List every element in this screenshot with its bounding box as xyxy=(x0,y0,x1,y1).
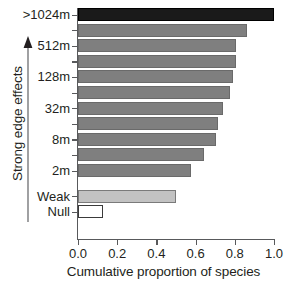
plot-area xyxy=(78,8,274,232)
bar-row xyxy=(78,133,274,146)
bar xyxy=(78,70,233,83)
bar xyxy=(78,55,236,68)
y-axis-tick-label: 8m xyxy=(0,133,70,146)
bar-row xyxy=(78,190,274,203)
x-axis-tick-label: 0.4 xyxy=(136,247,176,260)
y-axis-tick xyxy=(72,30,77,31)
bar-row xyxy=(78,117,274,130)
y-axis-tick xyxy=(72,108,77,109)
x-axis-tick xyxy=(78,240,79,245)
bar xyxy=(78,8,274,21)
y-axis-tick xyxy=(72,124,77,125)
y-axis-tick-label: 512m xyxy=(0,39,70,52)
x-axis-tick-label: 1.0 xyxy=(254,247,287,260)
y-axis-tick-label: >1024m xyxy=(0,8,70,21)
bar xyxy=(78,117,218,130)
bar xyxy=(78,205,103,218)
bar xyxy=(78,39,236,52)
x-axis-tick xyxy=(117,240,118,245)
x-axis-tick-label: 0.0 xyxy=(58,247,98,260)
y-axis-tick-label: 128m xyxy=(0,70,70,83)
bar xyxy=(78,24,247,37)
bar xyxy=(78,148,204,161)
x-axis-tick-label: 0.8 xyxy=(215,247,255,260)
y-axis-tick xyxy=(72,93,77,94)
x-axis-tick xyxy=(274,240,275,245)
y-axis-tick-label: Null xyxy=(0,205,70,218)
bar xyxy=(78,86,230,99)
bar-row xyxy=(78,24,274,37)
bar-row xyxy=(78,70,274,83)
y-axis-tick xyxy=(72,77,77,78)
y-axis-tick-label: 32m xyxy=(0,102,70,115)
bar-row xyxy=(78,205,274,218)
y-axis-tick-label: 2m xyxy=(0,164,70,177)
bar xyxy=(78,190,176,203)
x-axis-tick-label: 0.2 xyxy=(97,247,137,260)
bar-row xyxy=(78,86,274,99)
bar xyxy=(78,164,191,177)
x-axis-title: Cumulative proportion of species xyxy=(40,264,287,279)
y-axis-tick-label: Weak xyxy=(0,190,70,203)
y-axis-tick xyxy=(72,61,77,62)
y-axis-tick xyxy=(72,196,77,197)
x-axis-tick xyxy=(156,240,157,245)
y-axis-tick xyxy=(72,139,77,140)
x-axis-tick-label: 0.6 xyxy=(176,247,216,260)
y-axis-tick xyxy=(72,155,77,156)
bar xyxy=(78,133,216,146)
x-axis-tick xyxy=(235,240,236,245)
y-axis-tick xyxy=(72,212,77,213)
bar-row xyxy=(78,102,274,115)
bar-row xyxy=(78,164,274,177)
cumulative-proportion-bar-chart: Strong edge effects >1024m512m128m32m8m2… xyxy=(0,0,287,282)
bar xyxy=(78,102,223,115)
y-axis-tick xyxy=(72,171,77,172)
y-axis-tick xyxy=(72,15,77,16)
bar-row xyxy=(78,55,274,68)
y-axis-tick xyxy=(72,46,77,47)
x-axis-tick xyxy=(196,240,197,245)
bar-row xyxy=(78,148,274,161)
x-axis-line xyxy=(77,239,275,240)
bar-row xyxy=(78,8,274,21)
bar-row xyxy=(78,39,274,52)
